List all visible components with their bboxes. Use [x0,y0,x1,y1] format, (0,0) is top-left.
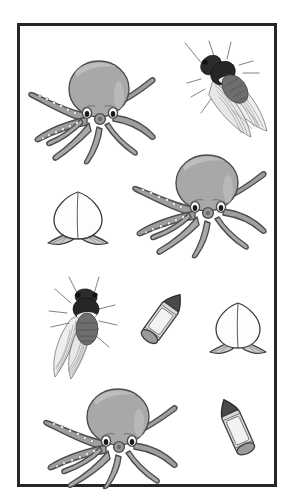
octopus-illustration[interactable] [38,381,180,489]
cicada-illustration[interactable] [41,275,127,381]
peach-illustration[interactable] [44,186,112,248]
cicada-illustration[interactable] [179,39,273,139]
picture-frame [17,23,277,487]
crayon-illustration[interactable] [137,286,189,350]
octopus-illustration[interactable] [127,145,269,257]
illustration-canvas [0,0,293,495]
peach-illustration[interactable] [206,298,270,356]
crayon-illustration[interactable] [210,393,262,461]
